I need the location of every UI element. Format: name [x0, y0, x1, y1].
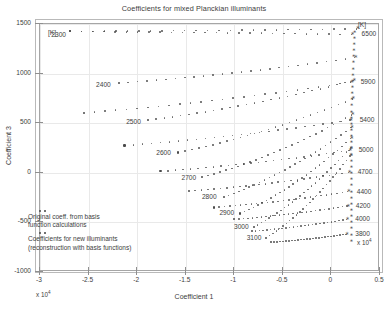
- data-point: [337, 150, 339, 152]
- data-point: [288, 66, 290, 68]
- data-point: [266, 229, 268, 231]
- data-point: [115, 109, 117, 111]
- data-point: [205, 146, 207, 148]
- x-axis-tick-label: 0.5: [359, 276, 388, 283]
- series-temperature-label: 5900: [361, 78, 376, 85]
- series-temperature-label: 2700: [182, 174, 197, 181]
- data-point: [285, 147, 287, 149]
- series-temperature-label: 4400: [357, 188, 372, 195]
- data-point: [288, 240, 290, 242]
- data-point: [328, 86, 330, 88]
- data-point: [147, 119, 149, 121]
- data-point: [319, 178, 321, 180]
- data-point: [309, 177, 311, 179]
- data-point: [315, 210, 317, 212]
- data-point: [165, 79, 167, 81]
- data-point: [207, 189, 209, 191]
- x-axis-tick: [233, 267, 234, 271]
- data-point: [104, 110, 106, 112]
- data-point: [207, 30, 209, 32]
- data-point: [307, 88, 309, 90]
- data-point: [212, 144, 214, 146]
- data-point: [261, 32, 263, 34]
- data-point: [292, 217, 294, 219]
- data-point: [276, 241, 278, 243]
- data-point: [238, 32, 240, 34]
- data-point: [250, 162, 252, 164]
- series-temperature-label: 5400: [360, 116, 375, 123]
- gridline-horizontal: [40, 74, 378, 75]
- data-point: [315, 167, 317, 169]
- data-point: [123, 144, 125, 146]
- asterisk-marker-icon: [39, 208, 168, 213]
- data-point: [201, 176, 203, 178]
- data-point: [289, 227, 291, 229]
- legend-entry-original: Original coeff. from basis function calc…: [28, 208, 168, 229]
- data-point: [346, 151, 348, 153]
- data-point: [299, 29, 301, 31]
- data-point: [221, 108, 223, 110]
- data-point: [233, 186, 235, 188]
- data-point: [274, 174, 276, 176]
- data-point: [240, 137, 242, 139]
- data-point: [281, 159, 283, 161]
- data-point: [306, 205, 308, 207]
- data-point: [265, 183, 267, 185]
- data-point: [306, 238, 308, 240]
- data-point: [310, 196, 312, 198]
- legend-label-reconstruction-line2: (reconstruction with basis functions): [28, 244, 168, 252]
- data-point: [159, 31, 161, 33]
- data-point: [303, 178, 305, 180]
- data-point: [297, 180, 299, 182]
- data-point: [322, 123, 324, 125]
- data-point: [204, 32, 206, 34]
- data-point: [327, 127, 329, 129]
- data-point: [321, 130, 323, 132]
- data-point: [344, 82, 346, 84]
- series-temperature-label: 2800: [202, 193, 217, 200]
- data-point: [196, 112, 198, 114]
- x-axis-tick-label: -3: [19, 276, 59, 283]
- x-axis-tick-label: -2: [116, 276, 156, 283]
- data-point: [258, 184, 260, 186]
- data-point: [228, 195, 230, 197]
- data-point: [216, 32, 218, 34]
- data-point: [253, 29, 255, 31]
- series-temperature-label: 2600: [156, 149, 171, 156]
- data-point: [238, 191, 240, 193]
- data-point: [211, 100, 213, 102]
- data-point: [266, 200, 268, 202]
- chart-title: Coefficients for mixed Planckian illumin…: [0, 4, 388, 13]
- data-point: [319, 209, 321, 211]
- data-point: [213, 173, 215, 175]
- data-point: [317, 33, 319, 35]
- data-point: [257, 204, 259, 206]
- data-point: [136, 108, 138, 110]
- data-point: [333, 207, 335, 209]
- y-axis-tick-label: 1000: [0, 69, 31, 76]
- data-point: [278, 67, 280, 69]
- data-point: [286, 128, 288, 130]
- data-point: [308, 224, 310, 226]
- gridline-vertical: [234, 24, 235, 270]
- data-point: [312, 198, 314, 200]
- data-point: [303, 239, 305, 241]
- data-point: [315, 237, 317, 239]
- data-point: [220, 188, 222, 190]
- data-point: [306, 33, 308, 35]
- data-point: [212, 74, 214, 76]
- series-temperature-label: 3000: [234, 223, 249, 230]
- data-point: [276, 212, 278, 214]
- data-point: [296, 214, 298, 216]
- legend-label-original-line2: function calculations: [28, 221, 168, 229]
- data-point: [164, 117, 166, 119]
- unit-header-right: [K]: [358, 21, 366, 28]
- data-point: [273, 152, 275, 154]
- data-point: [203, 75, 205, 77]
- data-point: [260, 69, 262, 71]
- data-point: [334, 221, 336, 223]
- data-point: [310, 29, 312, 31]
- data-point: [330, 167, 332, 169]
- data-point: [219, 142, 221, 144]
- x-axis-tick: [136, 267, 137, 271]
